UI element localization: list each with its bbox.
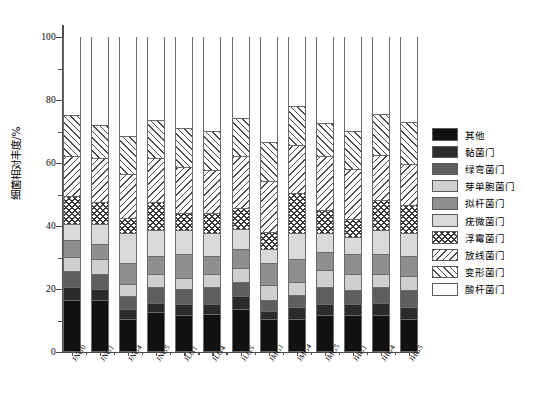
bar-JNG1[interactable] [91,37,109,352]
x-tick-minor [339,352,340,355]
x-tick-minor [114,352,115,355]
bar-segment [289,260,305,284]
bar-segment [176,305,192,316]
y-axis-title: 细菌相对丰度/% [8,126,23,200]
x-tick-minor [142,352,143,355]
bar-segment [204,171,220,214]
bar-segment [261,143,277,182]
bar-segment [148,203,164,231]
legend-item[interactable]: 绿弯菌门 [432,160,515,177]
legend-swatch [432,128,458,141]
legend: 其他黏菌门绿弯菌门芽单胞菌门拟杆菌门疣微菌门浮霉菌门放线菌门变形菌门酸杆菌门 [432,126,515,298]
plot-area [63,37,418,352]
bar-segment [261,286,277,300]
bar-segment [373,231,389,255]
legend-item[interactable]: 拟杆菌门 [432,195,515,212]
legend-item[interactable]: 黏菌门 [432,143,515,160]
legend-item[interactable]: 浮霉菌门 [432,229,515,246]
bar-segment [92,301,108,351]
bar-segment [92,290,108,301]
y-tick [56,37,62,38]
bar-segment [317,234,333,253]
x-tick-minor [86,352,87,355]
bar-JLG1[interactable] [175,37,193,352]
bar-segment [92,275,108,289]
bar-segment [345,170,361,220]
legend-item[interactable]: 疣微菌门 [432,212,515,229]
legend-swatch [432,146,458,159]
x-tick-minor [226,352,227,355]
y-tick-minor [58,69,62,70]
bar-JLG5[interactable] [232,37,250,352]
bar-JNG5[interactable] [147,37,165,352]
bar-segment [148,121,164,159]
bar-segment [289,308,305,319]
bar-JHG5[interactable] [400,37,418,352]
bar-segment [92,36,108,126]
bar-JLG4[interactable] [203,37,221,352]
bar-segment [64,36,80,116]
bar-segment [317,305,333,316]
bar-JHG1[interactable] [344,37,362,352]
bar-segment [176,214,192,231]
bar-segment [176,231,192,255]
bar-segment [148,257,164,276]
bar-JMG5[interactable] [316,37,334,352]
bar-segment [317,157,333,211]
legend-item[interactable]: 酸杆菌门 [432,281,515,298]
bar-segment [345,275,361,291]
bar-segment [120,234,136,264]
bar-segment [148,288,164,304]
bar-segment [233,250,249,269]
bar-segment [120,310,136,319]
bar-segment [401,257,417,277]
legend-label: 黏菌门 [465,145,495,159]
bar-segment [289,283,305,296]
bar-segment [345,36,361,132]
bar-segment [401,206,417,234]
bar-segment [176,255,192,279]
bar-segment [64,225,80,241]
legend-item[interactable]: 放线菌门 [432,246,515,263]
bar-segment [204,36,220,132]
bar-segment [233,297,249,310]
bar-segment [345,255,361,275]
legend-item[interactable]: 芽单胞菌门 [432,178,515,195]
bar-segment [148,231,164,256]
bar-segment [64,258,80,272]
bar-segment [345,238,361,255]
bar-segment [176,290,192,306]
y-tick [56,289,62,290]
bar-segment [176,129,192,168]
bar-JHG4[interactable] [372,37,390,352]
bar-segment [64,272,80,288]
y-tick [56,226,62,227]
bar-segment [261,264,277,286]
bar-segment [233,36,249,119]
x-tick-minor [170,352,171,355]
legend-label: 放线菌门 [465,248,505,262]
bar-segment [401,308,417,319]
bar-segment [261,250,277,264]
bar-segment [289,146,305,193]
y-tick-label: 80 [46,95,56,105]
bar-segment [120,297,136,310]
bar-JNG4[interactable] [119,37,137,352]
bar-segment [148,159,164,203]
x-tick-minor [198,352,199,355]
legend-label: 芽单胞菌门 [465,179,515,193]
bar-segment [373,201,389,231]
legend-item[interactable]: 变形菌门 [432,264,515,281]
x-tick-minor [395,352,396,355]
bar-JMG4[interactable] [288,37,306,352]
legend-label: 其他 [465,128,485,142]
bar-segment [64,288,80,301]
bar-JMG1[interactable] [260,37,278,352]
bar-segment [373,255,389,275]
bar-segment [92,126,108,159]
bar-segment [120,175,136,219]
legend-item[interactable]: 其他 [432,126,515,143]
bar-JNG0[interactable] [63,37,81,352]
bar-segment [176,36,192,129]
bar-segment [401,165,417,206]
